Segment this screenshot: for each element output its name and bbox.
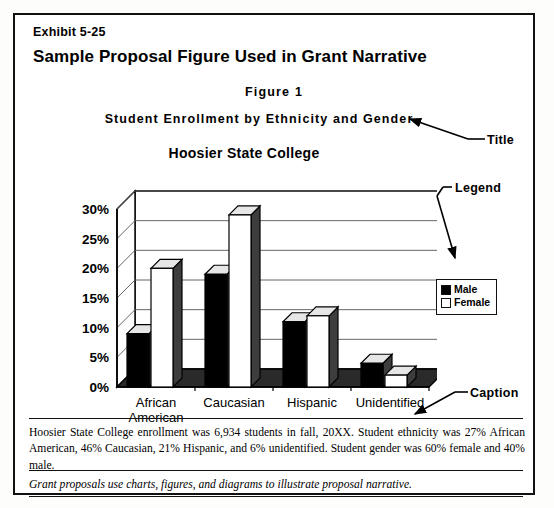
page-title: Sample Proposal Figure Used in Grant Nar…	[33, 47, 427, 67]
y-axis-tick-label: 10%	[82, 321, 109, 336]
legend-item-male: Male	[441, 283, 490, 296]
legend-swatch-female-icon	[441, 298, 451, 308]
chart-legend: Male Female	[436, 279, 497, 315]
chart-title: Hoosier State College	[15, 145, 533, 161]
figure-number: Figure 1	[15, 85, 533, 99]
x-axis-category-label: Caucasian	[203, 395, 264, 410]
bar-chart: 0%5%10%15%20%25%30%AfricanAmericanCaucas…	[37, 187, 437, 425]
y-axis-tick-label: 30%	[82, 202, 109, 217]
figure-subtitle: Student Enrollment by Ethnicity and Gend…	[15, 112, 533, 126]
caption-divider-top	[29, 418, 523, 419]
legend-label-female: Female	[454, 296, 490, 309]
bar-female-1	[229, 206, 260, 387]
legend-label-male: Male	[454, 283, 477, 296]
caption-text: Hoosier State College enrollment was 6,9…	[29, 425, 525, 474]
exhibit-page: Exhibit 5-25 Sample Proposal Figure Used…	[0, 0, 554, 508]
x-axis-category-label: African	[136, 395, 176, 410]
y-axis-tick-label: 0%	[89, 380, 109, 395]
x-axis-category-label: Hispanic	[287, 395, 337, 410]
chart-canvas: 0%5%10%15%20%25%30%AfricanAmericanCaucas…	[37, 187, 437, 425]
bar-female-0	[151, 259, 182, 387]
note-divider-top	[29, 470, 523, 471]
note-text: Grant proposals use charts, figures, and…	[29, 477, 525, 493]
annotation-label-legend: Legend	[455, 181, 501, 195]
annotation-label-caption: Caption	[470, 386, 519, 400]
exhibit-label: Exhibit 5-25	[33, 25, 106, 39]
exhibit-frame: Exhibit 5-25 Sample Proposal Figure Used…	[13, 13, 535, 495]
legend-swatch-male-icon	[441, 285, 451, 295]
y-axis-tick-label: 15%	[82, 291, 109, 306]
bar-female-2	[307, 307, 338, 387]
y-axis-tick-label: 25%	[82, 232, 109, 247]
x-axis-category-label: Unidentified	[356, 395, 425, 410]
figure-heading-block: Figure 1 Student Enrollment by Ethnicity…	[15, 79, 533, 161]
annotation-label-title: Title	[487, 133, 514, 147]
y-axis-tick-label: 5%	[89, 350, 109, 365]
y-axis-tick-label: 20%	[82, 261, 109, 276]
legend-item-female: Female	[441, 296, 490, 309]
note-divider-bottom	[29, 496, 523, 497]
